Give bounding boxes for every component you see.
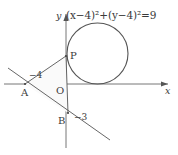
x-axis-label: x bbox=[165, 86, 170, 96]
y-intercept-label: −3 bbox=[74, 113, 87, 122]
point-label-a: A bbox=[21, 88, 28, 98]
figure-canvas bbox=[0, 0, 178, 155]
geometry-figure: (x−4)²+(y−4)²=9 y x P O A B −4 −3 bbox=[0, 0, 178, 155]
origin-label: O bbox=[56, 86, 64, 96]
point-label-b: B bbox=[58, 116, 65, 126]
point-B-marker bbox=[67, 112, 69, 114]
point-label-p: P bbox=[70, 51, 77, 61]
circle-equation-label: (x−4)²+(y−4)²=9 bbox=[66, 10, 156, 21]
point-A-marker bbox=[24, 83, 26, 85]
x-intercept-label: −4 bbox=[29, 71, 42, 80]
y-axis-label: y bbox=[56, 11, 61, 21]
point-P-marker bbox=[65, 55, 67, 57]
